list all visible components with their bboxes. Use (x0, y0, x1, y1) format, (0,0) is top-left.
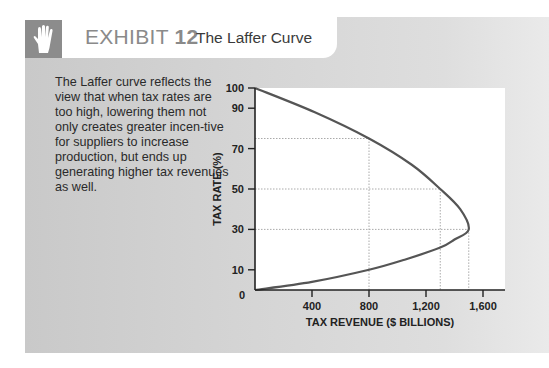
y-axis-ticks: 01030507090100 (226, 82, 255, 301)
x-tick-label: 1,200 (412, 300, 440, 312)
x-tick-label: 800 (360, 300, 378, 312)
y-axis-title: TAX RATE (%) (211, 152, 223, 226)
y-tick-label: 30 (232, 223, 244, 235)
x-tick-label: 400 (303, 300, 321, 312)
x-tick-label: 1,600 (469, 300, 497, 312)
y-tick-label: 50 (232, 183, 244, 195)
x-axis-ticks: 4008001,2001,600 (303, 290, 497, 312)
laffer-chart: 01030507090100 4008001,2001,600 TAX REVE… (0, 0, 549, 368)
y-tick-label: 70 (232, 143, 244, 155)
x-axis-title: TAX REVENUE ($ BILLIONS) (306, 316, 455, 328)
y-tick-label: 90 (232, 102, 244, 114)
y-tick-label: 10 (232, 264, 244, 276)
y-tick-label: 100 (226, 82, 244, 94)
y-tick-label: 0 (239, 289, 245, 301)
